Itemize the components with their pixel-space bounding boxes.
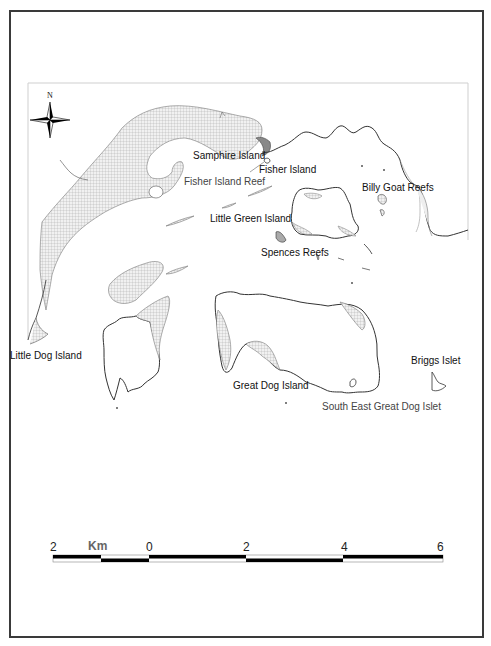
spences-reef [276,232,286,243]
north-label: N [47,91,53,100]
label-billy-goat-reefs: Billy Goat Reefs [362,183,434,193]
compass-rose-icon [30,102,70,138]
label-fisher-island-reef: Fisher Island Reef [184,177,265,187]
scale-tick-4: 4 [341,540,348,554]
label-south-east-great-dog-islet: South East Great Dog Islet [322,402,441,412]
little-dog-north-flat [109,261,164,303]
scale-unit: Km [88,539,107,553]
great-dog-island [215,292,379,393]
scale-tick-neg2: 2 [50,540,57,554]
label-little-green-island: Little Green Island [210,214,291,224]
label-great-dog-island: Great Dog Island [233,381,309,391]
billy-goat-flat [416,186,432,236]
reef-streak [248,186,272,196]
label-fisher-island: Fisher Island [259,165,316,175]
scale-tick-2: 2 [243,540,250,554]
label-little-dog-island: Little Dog Island [10,351,82,361]
scale-bar [53,555,443,562]
west-tidal-flat [30,318,48,344]
billy-goat-reef [378,194,386,204]
label-spences-reefs: Spences Reefs [261,248,329,258]
south-east-great-dog-islet [350,379,356,387]
scale-tick-6: 6 [437,540,444,554]
small-islet-in-bay [149,186,163,198]
label-briggs-islet: Briggs Islet [411,356,460,366]
briggs-islet [432,372,446,391]
scale-tick-0: 0 [146,540,153,554]
tiny-islet [116,407,118,409]
label-samphire-island: Samphire Island [193,151,265,161]
